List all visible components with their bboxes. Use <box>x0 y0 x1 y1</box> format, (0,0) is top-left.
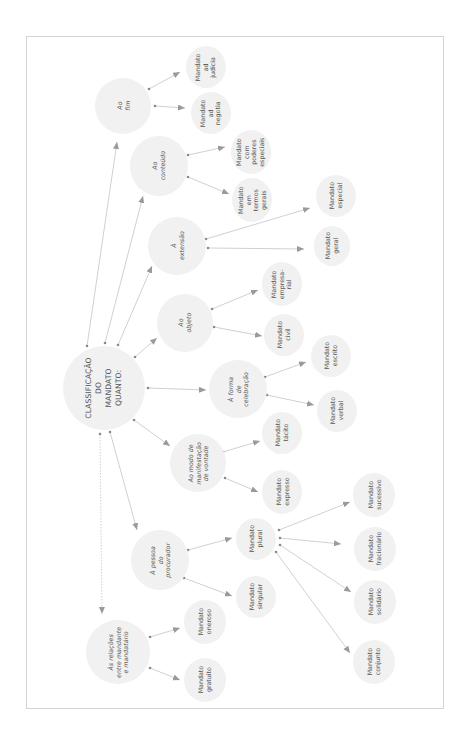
leaf-label: Mandato ad negotia <box>200 99 223 126</box>
leaf-mandato-ad-judicia: Mandato ad judicia <box>186 46 226 88</box>
category-label: À forma de celebração <box>227 372 250 407</box>
category-a-extensao: À extensão <box>148 217 206 275</box>
leaf-label: Mandato especial <box>328 182 343 209</box>
leaf-label: Mandato gratuito <box>197 666 212 693</box>
leaf-mandato-plural: Mandato plural <box>236 518 276 560</box>
category-label: Ao modo de manifestação de vontade <box>187 442 210 485</box>
leaf-mandato-conjunto: Mandato conjunto <box>353 640 395 684</box>
leaf-label: Mandato singular <box>248 583 263 610</box>
leaf-label: Mandato ad judicia <box>195 53 218 80</box>
leaf-label: Mandato plural <box>248 525 263 552</box>
category-ao-modo-de-manifestacao: Ao modo de manifestação de vontade <box>170 434 226 492</box>
leaf-mandato-poderes-especiais: Mandato com poderes especiais <box>231 130 271 174</box>
root-node-classificacao: CLASSIFICAÇÃO DO MANDATO QUANTO: <box>63 346 145 430</box>
leaf-label: Mandato fracionário <box>367 532 382 566</box>
leaf-mandato-empresarial: Mandato empresa- rial <box>262 262 302 306</box>
leaf-mandato-tacito: Mandato tácito <box>262 412 302 454</box>
category-label: Ao fim <box>115 101 130 111</box>
category-ao-objeto: Ao objeto <box>157 294 213 352</box>
category-a-pessoa-do-procurador: À pessoa do procurador <box>131 530 189 590</box>
category-a-forma-de-celebracao: À forma de celebração <box>209 360 267 418</box>
leaf-label: Mandato em termos gerais <box>237 186 267 213</box>
leaf-mandato-singular: Mandato singular <box>236 576 276 618</box>
leaf-label: Mandato civil <box>276 321 291 348</box>
leaf-mandato-gratuito: Mandato gratuito <box>184 658 226 702</box>
leaf-mandato-solidario: Mandato solidário <box>354 580 396 624</box>
leaf-mandato-ad-negotia: Mandato ad negotia <box>191 92 231 134</box>
leaf-mandato-oneroso: Mandato oneroso <box>184 600 226 644</box>
category-label: À pessoa do procurador <box>149 543 172 578</box>
category-label: Às relações entre mandante e mandatário <box>107 627 130 678</box>
leaf-mandato-termos-gerais: Mandato em termos gerais <box>232 178 272 222</box>
leaf-label: Mandato solidário <box>367 588 382 615</box>
category-ao-fim: Ao fim <box>95 78 151 134</box>
category-ao-conteudo: Ao conteúdo <box>130 136 188 196</box>
leaf-label: Mandato sucessivo <box>366 480 381 511</box>
leaf-mandato-expresso: Mandato expresso <box>262 470 302 514</box>
leaf-label: Mandato expresso <box>274 478 289 506</box>
category-label: À extensão <box>169 232 184 261</box>
leaf-label: Mandato verbal <box>329 397 344 424</box>
leaf-label: Mandato geral <box>324 232 339 259</box>
leaf-mandato-civil: Mandato civil <box>264 314 304 356</box>
root-label: CLASSIFICAÇÃO DO MANDATO QUANTO: <box>84 357 124 418</box>
leaf-mandato-sucessivo: Mandato sucessivo <box>353 473 395 517</box>
leaf-mandato-fracionario: Mandato fracionário <box>354 527 396 571</box>
leaf-mandato-verbal: Mandato verbal <box>317 390 357 432</box>
leaf-label: Mandato oneroso <box>197 608 212 635</box>
leaf-label: Mandato com poderes especiais <box>236 137 266 166</box>
leaf-label: Mandato escrito <box>323 342 338 369</box>
leaf-mandato-especial: Mandato especial <box>316 175 356 217</box>
leaf-mandato-geral: Mandato geral <box>314 226 350 266</box>
leaf-mandato-escrito: Mandato escrito <box>311 335 351 377</box>
leaf-label: Mandato conjunto <box>366 648 381 675</box>
category-label: Ao conteúdo <box>151 151 166 181</box>
leaf-label: Mandato empresa- rial <box>271 269 294 299</box>
category-label: Ao objeto <box>177 313 192 333</box>
leaf-label: Mandato tácito <box>274 419 289 446</box>
category-as-relacoes: Às relações entre mandante e mandatário <box>86 620 150 684</box>
